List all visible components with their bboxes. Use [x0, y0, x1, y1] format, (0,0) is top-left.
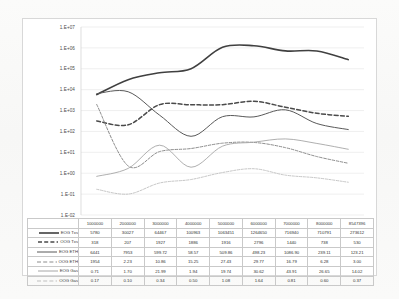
data-series-group: [97, 45, 349, 194]
table-cell: 0.50: [177, 276, 210, 286]
plot-area: 1.E+071.E+061.E+051.E+041.E+031.E+021.E+…: [23, 19, 378, 219]
table-column-header: 3000000: [144, 219, 177, 229]
table-column-header: 4000000: [177, 219, 210, 229]
y-axis-tick-label: 1.E+06: [60, 46, 76, 51]
table-cell: 1886: [177, 238, 210, 248]
series-line-oog-eth: [97, 104, 349, 167]
table-cell: 1063451: [210, 228, 243, 238]
y-axis-tick-label: 1.E+04: [60, 87, 76, 92]
table-column-header: 8000000: [308, 219, 341, 229]
table-cell: 1086.90: [275, 247, 308, 257]
legend-swatch-icon: [38, 240, 58, 244]
table-cell: 530: [341, 238, 374, 248]
table-cell: 0.60: [308, 276, 341, 286]
table-cell: 30.62: [242, 266, 275, 276]
table-cell: 58.57: [177, 247, 210, 257]
table-row: OOG Gas0.170.100.340.501.081.640.810.600…: [28, 276, 374, 286]
table-cell: 7953: [111, 247, 144, 257]
table-cell: 1440: [275, 238, 308, 248]
table-cell: 318: [79, 238, 112, 248]
legend-label: EOG Gas: [60, 269, 78, 273]
table-cell: 738: [308, 238, 341, 248]
table-cell: 6.28: [308, 257, 341, 267]
legend-cell: EOG Gas: [28, 266, 79, 276]
table-cell: 16.79: [275, 257, 308, 267]
table-cell: 21.99: [144, 266, 177, 276]
y-axis-tick-label: 1.E-01: [61, 192, 75, 197]
series-line-oog-gas: [97, 169, 349, 195]
table-cell: 30027: [111, 228, 144, 238]
table-cell: 599.72: [144, 247, 177, 257]
series-line-oog-txs: [97, 101, 349, 125]
table-cell: 239.11: [308, 247, 341, 257]
table-cell: 5780: [79, 228, 112, 238]
table-cell: 1954: [79, 257, 112, 267]
table-row: EOG Txs578030027644671009631063451126465…: [28, 228, 374, 238]
page-background: 1.E+071.E+061.E+051.E+041.E+031.E+021.E+…: [0, 0, 399, 299]
table-cell: 2796: [242, 238, 275, 248]
table-header-row: 1000000200000030000004000000500000060000…: [28, 219, 374, 229]
table-cell: 15.25: [177, 257, 210, 267]
y-axis-tick-labels: 1.E+071.E+061.E+051.E+041.E+031.E+021.E+…: [60, 25, 76, 218]
y-axis-tick-label: 1.E+02: [60, 129, 76, 134]
table-cell: 26.65: [308, 266, 341, 276]
table-cell: 0.34: [144, 276, 177, 286]
table-cell: 1927: [144, 238, 177, 248]
table-cell: 100963: [177, 228, 210, 238]
line-chart-svg: 1.E+071.E+061.E+051.E+041.E+031.E+021.E+…: [23, 19, 378, 219]
table-cell: 509.86: [210, 247, 243, 257]
table-cell: 716940: [275, 228, 308, 238]
table-cell: 27.43: [210, 257, 243, 267]
y-axis-tick-label: 1.E-02: [61, 213, 75, 218]
table-column-header: 6000000: [242, 219, 275, 229]
table-cell: 0.37: [341, 276, 374, 286]
legend-label: OOG Gas: [59, 279, 78, 283]
legend-swatch-icon: [37, 260, 57, 264]
table-column-header: 2000000: [111, 219, 144, 229]
series-line-eog-eth: [97, 90, 349, 136]
legend-swatch-icon: [38, 269, 58, 273]
table-cell: 273612: [341, 228, 374, 238]
legend-cell: OOG ETH: [28, 257, 79, 267]
table-corner-cell: [28, 219, 79, 229]
chart-card: 1.E+071.E+061.E+051.E+041.E+031.E+021.E+…: [22, 18, 377, 276]
y-axis-tick-label: 1.E+03: [60, 108, 76, 113]
legend-swatch-icon: [39, 231, 59, 235]
legend-cell: OOG Gas: [28, 276, 79, 286]
legend-cell: EOG ETH: [28, 247, 79, 257]
legend-swatch-icon: [37, 279, 57, 283]
legend-label: OOG ETH: [59, 260, 78, 264]
table-cell: 0.10: [111, 276, 144, 286]
table-cell: 123.21: [341, 247, 374, 257]
table-column-header: 8547396: [341, 219, 374, 229]
series-line-eog-txs: [97, 45, 349, 95]
legend-label: EOG ETH: [59, 250, 78, 254]
table-cell: 0.71: [79, 266, 112, 276]
table-cell: 207: [111, 238, 144, 248]
y-axis-tick-label: 1.E+00: [60, 171, 76, 176]
table-column-header: 5000000: [210, 219, 243, 229]
table-cell: 498.23: [242, 247, 275, 257]
y-axis-tick-label: 1.E+07: [60, 25, 76, 30]
table-column-header: 7000000: [275, 219, 308, 229]
table-cell: 2.23: [111, 257, 144, 267]
table-row: EOG Gas0.711.7021.991.9419.7430.6243.912…: [28, 266, 374, 276]
table-cell: 10.86: [144, 257, 177, 267]
table-head: 1000000200000030000004000000500000060000…: [28, 219, 374, 229]
table-cell: 6441: [79, 247, 112, 257]
chart-data-table: 1000000200000030000004000000500000060000…: [27, 218, 374, 286]
table-cell: 43.91: [275, 266, 308, 276]
gridlines: [81, 27, 364, 215]
legend-label: OOG Txs: [60, 240, 78, 244]
table-cell: 3.00: [341, 257, 374, 267]
table-cell: 14.02: [341, 266, 374, 276]
legend-cell: EOG Txs: [28, 228, 79, 238]
table-cell: 710791: [308, 228, 341, 238]
table-cell: 1.94: [177, 266, 210, 276]
table-cell: 1.08: [210, 276, 243, 286]
table-cell: 29.77: [242, 257, 275, 267]
table-row: EOG ETH64417953599.7258.57509.86498.2310…: [28, 247, 374, 257]
legend-swatch-icon: [37, 250, 57, 254]
y-axis-tick-label: 1.E+01: [60, 150, 76, 155]
series-line-eog-gas: [97, 139, 349, 176]
